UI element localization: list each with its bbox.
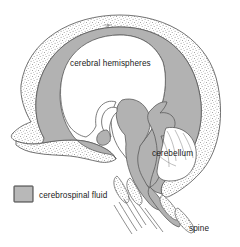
figure-root: cerebral hemispheres cerebellum spine ce…: [0, 0, 240, 247]
label-cerebellum: cerebellum: [152, 149, 193, 158]
head-cross-section: cerebral hemispheres cerebellum spine ce…: [11, 15, 220, 234]
label-cerebral-hemispheres: cerebral hemispheres: [70, 59, 151, 68]
csf-cistern-lobe: [97, 130, 111, 145]
legend: cerebrospinal fluid: [14, 186, 108, 202]
label-spine: spine: [189, 224, 209, 233]
legend-swatch-cerebrospinal-fluid: [14, 186, 33, 202]
anatomy-diagram: cerebral hemispheres cerebellum spine ce…: [0, 0, 240, 247]
vertebra-2: [114, 176, 129, 203]
legend-label-cerebrospinal-fluid: cerebrospinal fluid: [39, 191, 108, 200]
